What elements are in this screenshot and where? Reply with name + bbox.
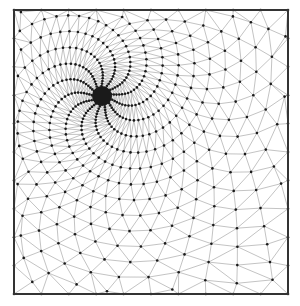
mesh-node — [97, 38, 100, 41]
mesh-node — [189, 34, 192, 37]
mesh-node — [114, 69, 117, 72]
mesh-node — [264, 108, 267, 111]
mesh-node — [90, 53, 93, 56]
mesh-node — [118, 182, 121, 185]
mesh-node — [153, 90, 156, 93]
mesh-node — [255, 189, 258, 192]
mesh-node — [254, 46, 257, 49]
mesh-node — [172, 139, 175, 142]
mesh-node — [20, 48, 23, 51]
mesh-node — [30, 83, 33, 86]
mesh-node — [114, 86, 117, 89]
mesh-node — [107, 179, 110, 182]
mesh-node — [85, 83, 88, 86]
mesh-node — [107, 120, 110, 123]
mesh-node — [171, 225, 174, 228]
mesh-node — [90, 223, 93, 226]
mesh-node — [157, 109, 160, 112]
mesh-node — [83, 114, 86, 117]
mesh-node — [134, 30, 137, 33]
mesh-node — [16, 132, 19, 135]
mesh-node — [140, 245, 143, 248]
mesh-node — [211, 167, 214, 170]
mesh-node — [113, 93, 116, 96]
mesh-node — [106, 143, 109, 146]
mesh-node — [225, 153, 228, 156]
mesh-node — [207, 261, 210, 264]
mesh-node — [96, 113, 99, 116]
mesh-node — [70, 110, 73, 113]
mesh-node — [180, 188, 183, 191]
mesh-node — [111, 106, 114, 109]
mesh-node — [217, 103, 220, 106]
mesh-node — [46, 195, 49, 198]
mesh-node — [120, 132, 123, 135]
mesh-node — [138, 83, 141, 86]
mesh-node — [88, 99, 91, 102]
mesh-node — [69, 46, 72, 49]
mesh-node — [267, 28, 270, 31]
mesh-node — [228, 119, 231, 122]
mesh-node — [66, 118, 69, 121]
mesh-node — [164, 242, 167, 245]
mesh-node — [91, 35, 94, 38]
mesh-node — [175, 42, 178, 45]
mesh-node — [90, 73, 93, 76]
mesh-node — [107, 82, 110, 85]
mesh-node — [259, 207, 262, 210]
mesh-node — [42, 72, 45, 75]
mesh-node — [119, 115, 122, 118]
mesh-node — [135, 135, 138, 138]
mesh-node — [269, 261, 272, 264]
mesh-node — [104, 160, 107, 163]
mesh-node — [192, 217, 195, 220]
mesh-node — [53, 65, 56, 68]
mesh-node — [36, 77, 39, 80]
mesh-node — [57, 242, 60, 245]
mesh-node — [72, 177, 75, 180]
mesh-node — [144, 51, 147, 54]
mesh-node — [39, 54, 42, 57]
mesh-node — [91, 106, 94, 109]
mesh-node — [85, 68, 88, 71]
mesh-node — [102, 74, 105, 77]
mesh-node — [172, 157, 175, 160]
mesh-node — [156, 259, 159, 262]
mesh-node — [77, 31, 80, 34]
mesh-node — [77, 103, 80, 106]
mesh-node — [265, 148, 268, 151]
mesh-node — [96, 129, 99, 132]
mesh-node — [88, 93, 91, 96]
mesh-edge-paths — [14, 10, 288, 294]
mesh-node — [152, 28, 155, 31]
mesh-node — [147, 276, 150, 279]
mesh-node — [273, 165, 276, 168]
mesh-node — [127, 92, 130, 95]
mesh-node — [49, 122, 52, 125]
mesh-node — [102, 42, 105, 45]
mesh-node — [114, 62, 117, 65]
mesh-node — [280, 182, 283, 185]
mesh-node — [145, 64, 148, 67]
mesh-node — [47, 50, 50, 53]
mesh-node — [156, 180, 159, 183]
mesh-node — [129, 61, 132, 64]
mesh-node — [76, 79, 79, 82]
mesh-node — [202, 24, 205, 27]
mesh-node — [103, 258, 106, 261]
mesh-node — [16, 183, 19, 186]
mesh-node — [109, 50, 112, 53]
mesh-node — [270, 83, 273, 86]
mesh-node — [95, 115, 98, 118]
mesh-node — [50, 115, 53, 118]
mesh-node — [192, 75, 195, 78]
mesh-node — [144, 70, 147, 73]
mesh-node — [98, 156, 101, 159]
mesh-node — [104, 111, 107, 114]
mesh-node — [76, 158, 79, 161]
mesh-node — [97, 175, 100, 178]
mesh-node — [44, 92, 47, 95]
mesh-node — [108, 228, 111, 231]
mesh-node — [75, 283, 78, 286]
mesh-node — [139, 214, 142, 217]
